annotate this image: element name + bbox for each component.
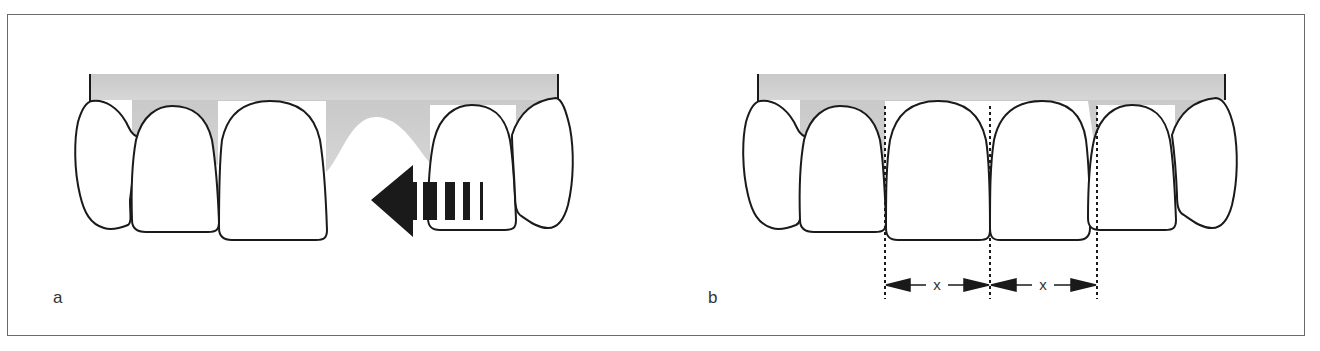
tooth-canine-right-a (512, 98, 573, 228)
tooth-lateral-left-a (132, 106, 219, 232)
panel-label-a: a (53, 288, 62, 308)
panel-a (75, 74, 573, 240)
tooth-canine-right-b (1172, 98, 1237, 228)
tooth-central-1-b (886, 101, 990, 240)
panel-label-b: b (708, 288, 717, 308)
dimension-label-2: x (1039, 276, 1047, 293)
dental-diagram (0, 0, 1320, 351)
tooth-lateral-right-b (1088, 105, 1176, 230)
panel-b (743, 74, 1237, 299)
tooth-canine-left-b (743, 101, 806, 229)
tooth-central-left-a (219, 101, 327, 240)
tooth-canine-left-a (75, 101, 138, 229)
tooth-lateral-left-b (800, 106, 886, 232)
tooth-lateral-right-a (428, 105, 516, 230)
dimension-label-1: x (933, 276, 941, 293)
tooth-central-2-b (990, 101, 1090, 240)
